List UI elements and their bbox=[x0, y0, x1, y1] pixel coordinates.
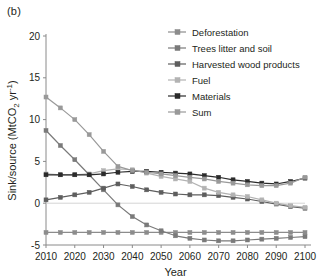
data-point-marker bbox=[102, 149, 106, 153]
legend-item-materials[interactable]: Materials bbox=[168, 91, 231, 102]
data-point-marker bbox=[159, 190, 163, 194]
data-point-marker bbox=[174, 192, 178, 196]
x-tick-label: 2030 bbox=[92, 251, 115, 262]
data-point-marker bbox=[87, 190, 91, 194]
data-point-marker bbox=[145, 170, 149, 174]
data-point-marker bbox=[231, 181, 235, 185]
data-point-marker bbox=[202, 177, 206, 181]
data-point-marker bbox=[87, 173, 91, 177]
data-point-marker bbox=[188, 236, 192, 240]
data-point-marker bbox=[188, 193, 192, 197]
y-tick-label: 10 bbox=[29, 114, 41, 125]
data-point-marker bbox=[58, 195, 62, 199]
y-tick-label: 20 bbox=[29, 31, 41, 42]
data-point-marker bbox=[145, 223, 149, 227]
data-point-marker bbox=[217, 230, 221, 234]
data-point-marker bbox=[116, 230, 120, 234]
data-point-marker bbox=[188, 230, 192, 234]
data-point-marker bbox=[130, 169, 134, 173]
data-point-marker bbox=[217, 190, 221, 194]
data-point-marker bbox=[217, 175, 221, 179]
y-tick-label: -5 bbox=[31, 240, 40, 251]
legend-item-trees-litter-and-soil[interactable]: Trees litter and soil bbox=[168, 43, 272, 54]
legend-marker bbox=[175, 78, 180, 83]
y-tick-label: 0 bbox=[34, 198, 40, 209]
data-point-marker bbox=[44, 173, 48, 177]
data-point-marker bbox=[102, 186, 106, 190]
data-point-marker bbox=[289, 235, 293, 239]
data-point-marker bbox=[231, 239, 235, 243]
data-point-marker bbox=[44, 198, 48, 202]
x-tick-label: 2100 bbox=[294, 251, 317, 262]
legend-label: Deforestation bbox=[192, 27, 249, 38]
data-point-marker bbox=[245, 238, 249, 242]
legend-item-deforestation[interactable]: Deforestation bbox=[168, 27, 249, 38]
y-tick-label: 5 bbox=[34, 156, 40, 167]
x-tick-label: 2090 bbox=[265, 251, 288, 262]
data-point-marker bbox=[58, 230, 62, 234]
data-point-marker bbox=[188, 175, 192, 179]
data-point-marker bbox=[159, 229, 163, 233]
data-point-marker bbox=[174, 174, 178, 178]
chart-figure: -505101520201020202030204020502060207020… bbox=[0, 0, 319, 280]
data-point-marker bbox=[73, 173, 77, 177]
data-point-marker bbox=[245, 183, 249, 187]
data-point-marker bbox=[130, 215, 134, 219]
data-point-marker bbox=[217, 179, 221, 183]
data-point-marker bbox=[44, 128, 48, 132]
data-point-marker bbox=[303, 175, 307, 179]
data-point-marker bbox=[274, 230, 278, 234]
data-point-marker bbox=[231, 230, 235, 234]
x-tick-label: 2050 bbox=[150, 251, 173, 262]
y-axis-title-text: Sink/source (MtCO2 yr-1) bbox=[5, 80, 21, 200]
data-point-marker bbox=[260, 230, 264, 234]
legend-marker bbox=[175, 110, 180, 115]
data-point-marker bbox=[289, 204, 293, 208]
data-point-marker bbox=[87, 133, 91, 137]
data-point-marker bbox=[130, 230, 134, 234]
data-point-marker bbox=[58, 144, 62, 148]
data-point-marker bbox=[116, 170, 120, 174]
data-point-marker bbox=[245, 230, 249, 234]
legend-label: Sum bbox=[192, 107, 212, 118]
legend-item-harvested-wood-products[interactable]: Harvested wood products bbox=[168, 59, 300, 70]
data-point-marker bbox=[174, 234, 178, 238]
legend-item-fuel[interactable]: Fuel bbox=[168, 75, 210, 86]
legend-marker bbox=[175, 46, 180, 51]
x-tick-label: 2010 bbox=[35, 251, 58, 262]
legend-label: Harvested wood products bbox=[192, 59, 300, 70]
legend-label: Fuel bbox=[192, 75, 210, 86]
x-tick-label: 2040 bbox=[121, 251, 144, 262]
data-point-marker bbox=[202, 186, 206, 190]
data-point-marker bbox=[58, 106, 62, 110]
data-point-marker bbox=[102, 172, 106, 176]
data-point-marker bbox=[303, 230, 307, 234]
data-point-marker bbox=[130, 184, 134, 188]
data-point-marker bbox=[303, 205, 307, 209]
legend-marker bbox=[175, 62, 180, 67]
data-point-marker bbox=[44, 230, 48, 234]
x-tick-label: 2020 bbox=[64, 251, 87, 262]
y-tick-label: 15 bbox=[29, 72, 41, 83]
data-point-marker bbox=[116, 164, 120, 168]
x-tick-label: 2070 bbox=[208, 251, 231, 262]
x-tick-label: 2060 bbox=[179, 251, 202, 262]
data-point-marker bbox=[116, 203, 120, 207]
x-tick-label: 2080 bbox=[236, 251, 259, 262]
data-point-marker bbox=[73, 230, 77, 234]
data-point-marker bbox=[145, 230, 149, 234]
data-point-marker bbox=[260, 237, 264, 241]
x-axis-title: Year bbox=[164, 266, 187, 278]
data-point-marker bbox=[87, 230, 91, 234]
data-point-marker bbox=[217, 239, 221, 243]
legend-marker bbox=[175, 30, 180, 35]
data-point-marker bbox=[245, 195, 249, 199]
data-point-marker bbox=[260, 184, 264, 188]
data-point-marker bbox=[73, 158, 77, 162]
data-point-marker bbox=[73, 193, 77, 197]
data-point-marker bbox=[188, 179, 192, 183]
legend-item-sum[interactable]: Sum bbox=[168, 107, 212, 118]
data-point-marker bbox=[202, 238, 206, 242]
data-point-marker bbox=[159, 172, 163, 176]
data-point-marker bbox=[116, 182, 120, 186]
